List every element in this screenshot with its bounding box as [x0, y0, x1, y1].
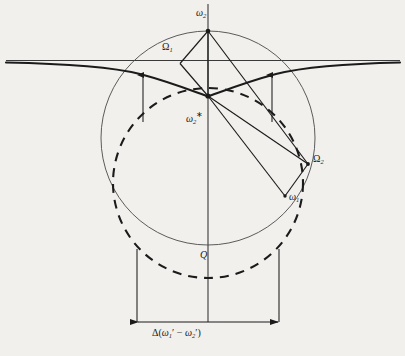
vertex-omega1	[283, 194, 286, 197]
dip-curve	[6, 63, 400, 97]
vertex-omega2-apex	[206, 29, 211, 34]
label-omega-2-apex: ω2	[196, 8, 206, 18]
diagram-svg	[0, 0, 405, 356]
vertex-omega2big	[306, 162, 310, 166]
ray-apex-to-omega2big	[208, 31, 308, 164]
label-omega-1: ω1	[289, 192, 299, 202]
label-charge-q: Q	[200, 250, 207, 260]
ray-apex-to-omega1big	[180, 31, 208, 64]
label-omega-2-star: ω2∗	[186, 112, 203, 124]
ray-node-to-omega2big	[208, 96, 308, 164]
figure-canvas: ω2 Ω1 ω2∗ Ω2 ω1 Q Δ(ω1′ − ω2′)	[0, 0, 405, 356]
label-delta-omega-span: Δ(ω1′ − ω2′)	[152, 328, 201, 338]
vertex-node	[205, 93, 210, 98]
label-big-omega-1: Ω1	[162, 42, 173, 52]
ray-node-to-omega1	[208, 96, 285, 196]
label-big-omega-2: Ω2	[313, 154, 324, 164]
